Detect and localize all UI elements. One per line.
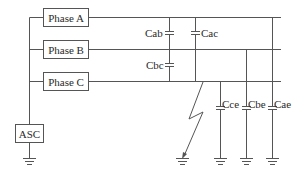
phase-a-box: Phase A <box>43 8 89 27</box>
ground-icon-cce <box>214 159 227 165</box>
asc-box: ASC <box>15 124 44 143</box>
cbc-label: Cbc <box>146 60 164 71</box>
asc-label: ASC <box>19 128 40 140</box>
ground-icon-cbe <box>240 159 253 165</box>
cbe-label: Cbe <box>248 99 266 110</box>
phase-b-label: Phase B <box>48 44 84 56</box>
ground-icon-fault <box>176 159 189 165</box>
ground-symbols <box>23 159 279 165</box>
ground-icon-cae <box>266 159 279 165</box>
phase-c-label: Phase C <box>48 76 84 88</box>
cae-label: Cae <box>274 99 291 110</box>
phase-b-box: Phase B <box>43 40 89 59</box>
phase-c-box: Phase C <box>43 72 89 91</box>
cce-label: Cce <box>222 99 239 110</box>
fault-lightning-icon <box>184 82 203 156</box>
cab-label: Cab <box>145 28 163 39</box>
cac-label: Cac <box>201 28 218 39</box>
phase-a-label: Phase A <box>48 12 84 24</box>
fault-arrowhead-icon <box>182 152 187 159</box>
ground-icon-asc <box>23 159 36 165</box>
